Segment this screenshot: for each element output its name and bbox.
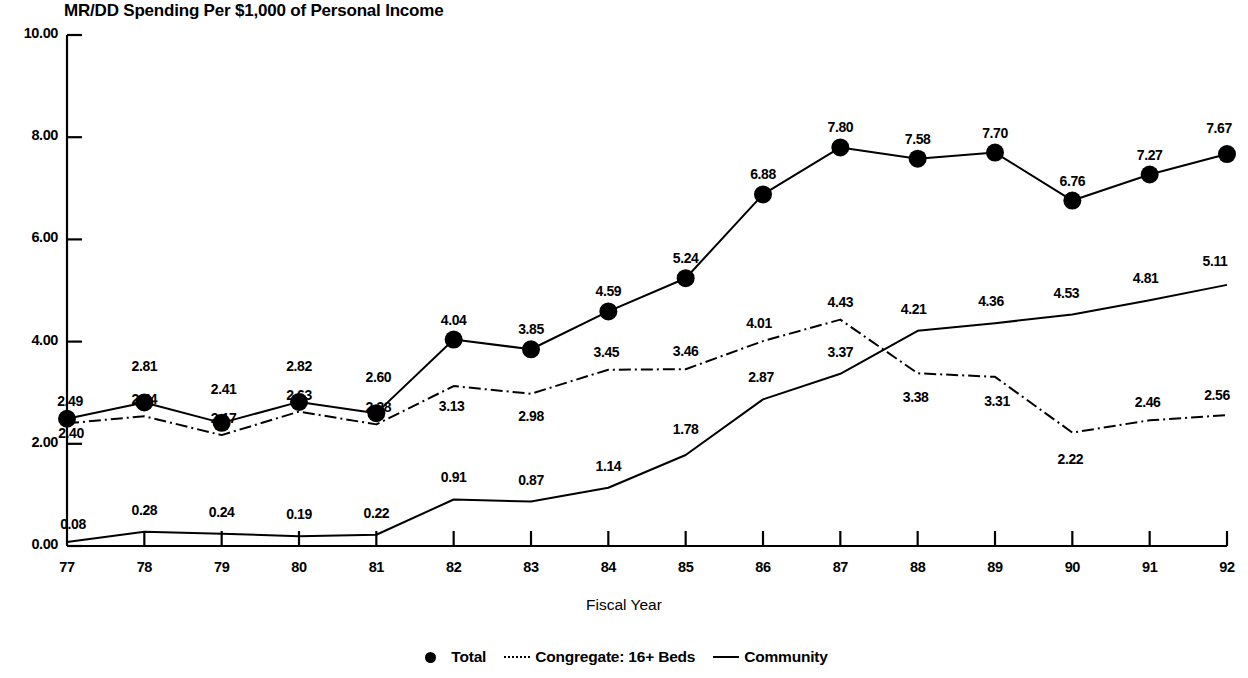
data-point-label: 2.38 [355, 399, 401, 415]
data-point-label: 2.60 [355, 369, 401, 385]
data-point-label: 3.45 [583, 344, 629, 360]
y-axis-tick-label: 6.00 [2, 229, 58, 245]
series-marker [599, 302, 617, 320]
data-point-label: 2.82 [276, 358, 322, 374]
series-marker [522, 340, 540, 358]
data-point-label: 1.78 [663, 421, 709, 437]
series-marker [445, 331, 463, 349]
data-point-label: 2.81 [121, 358, 167, 374]
x-axis-tick-label: 83 [511, 559, 551, 575]
x-axis-tick-label: 77 [47, 559, 87, 575]
data-point-label: 3.13 [429, 398, 475, 414]
data-point-label: 4.21 [891, 301, 937, 317]
data-point-label: 4.59 [585, 283, 631, 299]
data-point-label: 6.88 [740, 166, 786, 182]
legend-swatch-solid-icon [713, 650, 739, 664]
data-point-label: 4.36 [968, 293, 1014, 309]
y-axis-tick-label: 4.00 [2, 332, 58, 348]
data-point-label: 2.17 [201, 410, 247, 426]
x-axis-tick-label: 87 [820, 559, 860, 575]
series-marker [677, 269, 695, 287]
data-point-label: 4.04 [431, 312, 477, 328]
chart-container: MR/DD Spending Per $1,000 of Personal In… [0, 0, 1248, 678]
x-axis-tick-label: 79 [202, 559, 242, 575]
data-point-label: 0.24 [199, 504, 245, 520]
data-point-label: 2.46 [1125, 394, 1171, 410]
data-point-label: 7.67 [1196, 120, 1242, 136]
data-point-label: 0.19 [276, 506, 322, 522]
series-marker [909, 150, 927, 168]
legend-item-label: Total [451, 648, 486, 666]
data-point-label: 5.11 [1192, 253, 1238, 269]
x-axis-tick-label: 81 [356, 559, 396, 575]
data-point-label: 7.70 [972, 125, 1018, 141]
y-axis-tick-label: 10.00 [2, 25, 58, 41]
series-marker [754, 185, 772, 203]
data-point-label: 7.27 [1127, 147, 1173, 163]
data-point-label: 0.87 [508, 472, 554, 488]
y-axis-tick-label: 0.00 [2, 536, 58, 552]
x-axis-tick-label: 80 [279, 559, 319, 575]
legend-item-total[interactable]: Total [420, 648, 486, 666]
x-axis-tick-label: 91 [1130, 559, 1170, 575]
data-point-label: 7.58 [895, 131, 941, 147]
legend-swatch-marker-icon [420, 650, 446, 664]
legend-item-label: Community [744, 648, 827, 666]
legend-item-community[interactable]: Community [713, 648, 827, 666]
plot-area [0, 0, 1248, 678]
data-point-label: 0.28 [121, 502, 167, 518]
data-point-label: 0.22 [353, 505, 399, 521]
chart-legend: TotalCongregate: 16+ BedsCommunity [0, 648, 1248, 666]
data-point-label: 7.80 [817, 119, 863, 135]
data-point-label: 2.54 [121, 391, 167, 407]
data-point-label: 4.43 [817, 294, 863, 310]
series-marker [986, 144, 1004, 162]
series-marker [1141, 166, 1159, 184]
data-point-label: 0.91 [431, 469, 477, 485]
data-point-label: 5.24 [663, 250, 709, 266]
data-point-label: 2.22 [1047, 451, 1093, 467]
legend-swatch-dashdot-icon [504, 650, 530, 664]
data-point-label: 1.14 [585, 458, 631, 474]
data-point-label: 3.38 [893, 389, 939, 405]
data-point-label: 3.37 [817, 344, 863, 360]
data-point-label: 6.76 [1049, 173, 1095, 189]
series-marker [1218, 145, 1236, 163]
y-axis-tick-label: 8.00 [2, 127, 58, 143]
x-axis-tick-label: 89 [975, 559, 1015, 575]
data-point-label: 2.98 [508, 408, 554, 424]
data-point-label: 2.41 [201, 381, 247, 397]
data-point-label: 2.40 [48, 425, 94, 441]
data-point-label: 4.81 [1123, 270, 1169, 286]
x-axis-tick-label: 88 [898, 559, 938, 575]
series-marker [1063, 192, 1081, 210]
x-axis-tick-label: 82 [434, 559, 474, 575]
legend-item-congregate-16-beds[interactable]: Congregate: 16+ Beds [504, 648, 695, 666]
data-point-label: 3.46 [663, 343, 709, 359]
x-axis-tick-label: 85 [666, 559, 706, 575]
data-point-label: 4.53 [1043, 285, 1089, 301]
data-point-label: 4.01 [736, 315, 782, 331]
data-point-label: 2.56 [1194, 387, 1240, 403]
data-point-label: 2.87 [738, 369, 784, 385]
x-axis-tick-label: 86 [743, 559, 783, 575]
data-point-label: 0.08 [50, 516, 96, 532]
data-point-label: 3.85 [508, 321, 554, 337]
data-point-label: 3.31 [974, 393, 1020, 409]
x-axis-tick-label: 78 [124, 559, 164, 575]
x-axis-tick-label: 84 [588, 559, 628, 575]
data-point-label: 2.63 [276, 387, 322, 403]
legend-item-label: Congregate: 16+ Beds [535, 648, 695, 666]
series-marker [831, 138, 849, 156]
x-axis-title: Fiscal Year [474, 596, 774, 614]
x-axis-tick-label: 92 [1207, 559, 1247, 575]
x-axis-tick-label: 90 [1052, 559, 1092, 575]
data-point-label: 2.49 [47, 393, 93, 409]
